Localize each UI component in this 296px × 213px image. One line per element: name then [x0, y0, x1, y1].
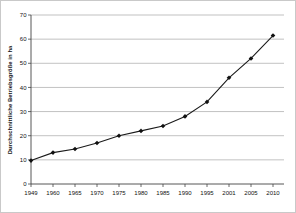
- x-tick-label: 1960: [46, 190, 60, 196]
- gridlines: [31, 15, 284, 160]
- x-tick-label: 1995: [200, 190, 214, 196]
- y-tick-label: 50: [20, 60, 27, 66]
- x-tick-label: 1980: [134, 190, 148, 196]
- y-tick-label: 10: [20, 157, 27, 163]
- x-tick-label: 1949: [24, 190, 38, 196]
- y-tick-label: 70: [20, 12, 27, 18]
- data-point-marker-1985: [161, 124, 166, 129]
- data-point-marker-1970: [95, 141, 100, 146]
- x-tick-label: 2010: [266, 190, 280, 196]
- x-tick-label: 1990: [178, 190, 192, 196]
- chart-window: 0102030405060701949196019651970197519801…: [0, 0, 296, 213]
- data-point-marker-1965: [73, 147, 78, 152]
- x-tick-label: 1965: [68, 190, 82, 196]
- x-tick-label: 2005: [244, 190, 258, 196]
- y-tick-label: 60: [20, 36, 27, 42]
- data-point-marker-1960: [51, 150, 56, 155]
- axes: [28, 15, 284, 187]
- series-line: [31, 36, 273, 161]
- data-point-marker-1949: [29, 158, 34, 163]
- y-tick-label: 40: [20, 85, 27, 91]
- line-chart: 0102030405060701949196019651970197519801…: [1, 1, 295, 212]
- x-tick-label: 1975: [112, 190, 126, 196]
- x-tick-label: 2001: [222, 190, 236, 196]
- y-tick-label: 20: [20, 133, 27, 139]
- x-tick-label: 1970: [90, 190, 104, 196]
- data-point-marker-1980: [139, 129, 144, 134]
- data-point-marker-1975: [117, 133, 122, 138]
- x-tick-label: 1985: [156, 190, 170, 196]
- data-series: [29, 33, 276, 163]
- y-axis-title: Durchschnittliche Betriebsgröße in ha: [7, 45, 13, 154]
- y-tick-label: 30: [20, 109, 27, 115]
- y-tick-label: 0: [23, 181, 27, 187]
- tick-labels: 0102030405060701949196019651970197519801…: [20, 12, 281, 196]
